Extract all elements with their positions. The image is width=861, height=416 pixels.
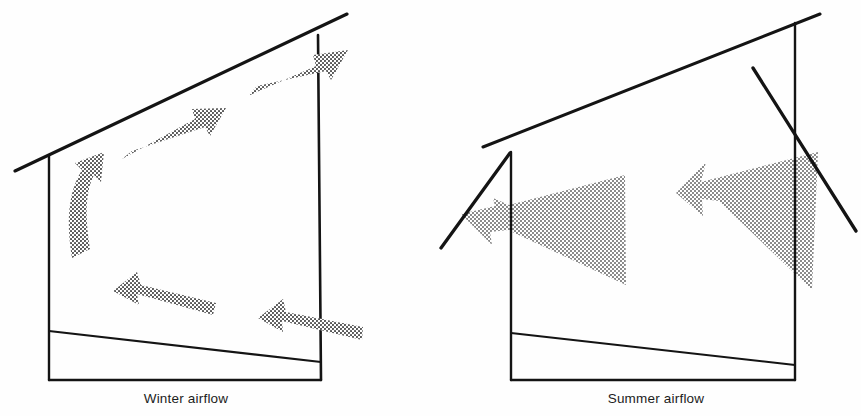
summer-arrow-inflow-right	[676, 152, 818, 290]
winter-roof-line	[15, 14, 347, 171]
airflow-diagram-canvas	[0, 0, 861, 416]
winter-arrow-exit-upper-right	[248, 50, 348, 96]
summer-roof-line	[483, 14, 820, 147]
winter-arrow-ceiling-lower	[122, 108, 226, 159]
airflow-figure: Winter airflow Summer airflow	[0, 0, 861, 416]
winter-floor-line	[49, 331, 321, 362]
summer-floor-line	[511, 333, 795, 365]
summer-left-window-open	[441, 153, 510, 248]
summer-airflow-arrows	[461, 152, 818, 290]
winter-arrow-rising-left	[69, 152, 104, 258]
summer-caption: Summer airflow	[470, 391, 842, 406]
winter-panel	[15, 14, 363, 380]
winter-arrow-return-floor	[113, 272, 216, 315]
summer-arrow-outflow-left	[461, 175, 626, 285]
winter-building-outline	[15, 14, 347, 380]
winter-caption: Winter airflow	[0, 391, 372, 406]
summer-panel	[441, 14, 856, 380]
winter-arrow-enter-lower-right	[258, 299, 363, 340]
